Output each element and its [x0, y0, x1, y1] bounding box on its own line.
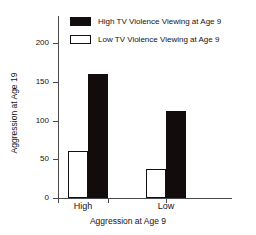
- y-axis-tick-label-150: 150: [36, 77, 49, 86]
- filled-square-icon: [70, 17, 91, 26]
- legend-item-high-tv-violence: High TV Violence Viewing at Age 9: [70, 13, 254, 29]
- y-axis-tick-label-50: 50: [40, 154, 49, 163]
- y-axis-tick-label-0: 0: [45, 193, 49, 202]
- x-axis-category-low: Low: [141, 201, 191, 212]
- legend-label-high-tv-violence: High TV Violence Viewing at Age 9: [98, 17, 221, 26]
- x-axis-tick-middle: [108, 198, 109, 203]
- bar-high-group-low-tv: [68, 151, 88, 198]
- y-axis-tick-100: 100: [53, 121, 59, 122]
- y-axis-tick-150: 150: [53, 82, 59, 83]
- bar-high-group-high-tv: [88, 74, 108, 198]
- bar-chart-figure: High TV Violence Viewing at Age 9 Low TV…: [0, 0, 256, 235]
- x-axis-category-high: High: [58, 201, 108, 212]
- legend-label-low-tv-violence: Low TV Violence Viewing at Age 9: [98, 35, 219, 44]
- hollow-square-icon: [70, 35, 91, 44]
- legend-item-low-tv-violence: Low TV Violence Viewing at Age 9: [70, 31, 254, 47]
- y-axis-tick-50: 50: [53, 159, 59, 160]
- chart-legend: High TV Violence Viewing at Age 9 Low TV…: [70, 13, 254, 49]
- bar-low-group-high-tv: [166, 111, 186, 198]
- y-axis-tick-label-200: 200: [36, 38, 49, 47]
- x-axis-title: Aggression at Age 9: [0, 216, 256, 226]
- y-axis-tick-200: 200: [53, 43, 59, 44]
- x-axis-line: [58, 198, 232, 199]
- y-axis-tick-label-100: 100: [36, 116, 49, 125]
- y-axis-title: Aggression at Age 19: [9, 54, 19, 172]
- bar-low-group-low-tv: [146, 169, 166, 198]
